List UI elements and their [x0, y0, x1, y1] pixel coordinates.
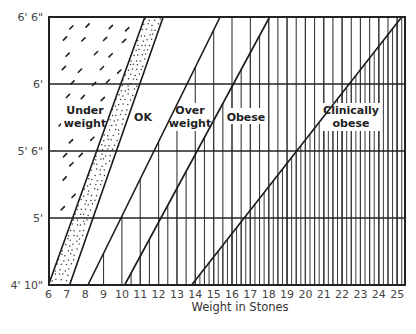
label-underweight-1: Under [66, 104, 104, 117]
x-tick-label: 6 [45, 288, 52, 301]
x-tick-label: 7 [63, 288, 70, 301]
x-tick-label: 22 [335, 288, 349, 301]
x-tick-label: 20 [298, 288, 312, 301]
x-tick-label: 21 [317, 288, 331, 301]
x-tick-label: 10 [115, 288, 129, 301]
x-tick-label: 9 [100, 288, 107, 301]
x-tick-label: 8 [82, 288, 89, 301]
y-axis-ticks: 6' 6"6'5' 6"5'4' 10" [10, 11, 43, 292]
x-tick-label: 23 [353, 288, 367, 301]
x-axis-title: Weight in Stones [191, 300, 288, 314]
y-tick-label: 6' 6" [17, 11, 43, 24]
y-tick-label: 6' [33, 78, 43, 91]
label-obese: Obese [227, 111, 266, 124]
y-tick-label: 4' 10" [10, 279, 43, 292]
region-labels: Under weight OK Over weight Obese Clinic… [64, 104, 379, 130]
label-overweight-2: weight [169, 117, 211, 130]
label-ok: OK [134, 111, 152, 124]
label-clinically-obese-2: obese [333, 117, 370, 130]
x-tick-label: 25 [390, 288, 404, 301]
label-underweight-2: weight [64, 117, 106, 130]
x-tick-label: 13 [170, 288, 184, 301]
x-tick-label: 12 [152, 288, 166, 301]
label-overweight-1: Over [175, 104, 205, 117]
y-tick-label: 5' [33, 212, 43, 225]
height-weight-chart: 6' 6"6'5' 6"5'4' 10" 6789101112131415161… [0, 0, 416, 334]
label-clinically-obese-1: Clinically [323, 104, 379, 117]
y-tick-label: 5' 6" [17, 145, 43, 158]
x-tick-label: 11 [133, 288, 147, 301]
x-tick-label: 24 [372, 288, 386, 301]
